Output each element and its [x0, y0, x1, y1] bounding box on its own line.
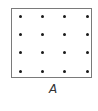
grid-dot: [41, 51, 44, 54]
figure-label: A: [46, 82, 60, 96]
grid-dot: [63, 70, 66, 73]
grid-dot: [86, 33, 89, 36]
grid-dot: [19, 33, 22, 36]
grid-dot: [19, 70, 22, 73]
grid-dot: [19, 51, 22, 54]
grid-dot: [63, 15, 66, 18]
grid-dot: [86, 15, 89, 18]
grid-dot: [63, 33, 66, 36]
grid-dot: [86, 51, 89, 54]
grid-dot: [41, 15, 44, 18]
grid-dot: [41, 70, 44, 73]
grid-dot: [63, 51, 66, 54]
grid-dot: [19, 15, 22, 18]
grid-dot: [86, 70, 89, 73]
dot-grid-frame: [11, 8, 92, 78]
grid-dot: [41, 33, 44, 36]
